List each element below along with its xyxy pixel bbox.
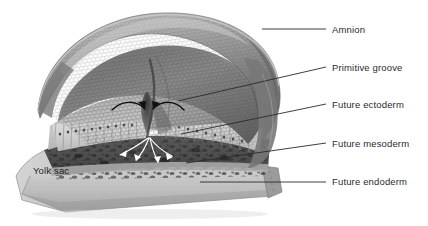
callout-label-primitive-groove: Primitive groove	[332, 62, 403, 73]
specimen-illustration	[16, 0, 300, 219]
embryo-gastrulation-figure: Amnion Primitive groove Future ectoderm …	[0, 0, 428, 226]
callout-label-future-mesoderm: Future mesoderm	[332, 138, 409, 149]
callout-label-amnion: Amnion	[332, 24, 365, 35]
callout-label-future-ectoderm: Future ectoderm	[332, 99, 404, 110]
inner-label-yolk-sac: Yolk sac	[33, 165, 69, 176]
callout-label-future-endoderm: Future endoderm	[332, 176, 407, 187]
